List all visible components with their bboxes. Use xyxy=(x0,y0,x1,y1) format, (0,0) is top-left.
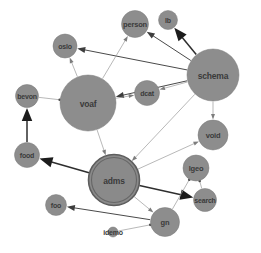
graph-node-adms[interactable]: adms xyxy=(89,155,140,206)
node-circle[interactable] xyxy=(194,189,217,212)
graph-edge xyxy=(39,97,60,99)
node-circle[interactable] xyxy=(16,85,39,108)
node-circle[interactable] xyxy=(53,34,77,58)
graph-edge-arrowhead xyxy=(211,114,215,120)
graph-edge xyxy=(52,162,90,173)
node-circle[interactable] xyxy=(183,155,209,181)
node-circle[interactable] xyxy=(60,75,116,131)
graph-edge-arrowhead xyxy=(193,141,199,145)
graph-edge-arrowhead xyxy=(67,205,75,211)
graph-node-bevon[interactable]: bevon xyxy=(16,85,39,108)
node-circle[interactable] xyxy=(135,81,160,106)
graph-edge-arrowhead xyxy=(128,94,134,98)
node-circle[interactable] xyxy=(151,208,180,237)
graph-edge xyxy=(134,197,149,210)
node-circle[interactable] xyxy=(89,155,140,206)
graph-node-schema[interactable]: schema xyxy=(187,49,239,101)
graph-node-gn[interactable]: gn xyxy=(151,208,180,237)
graph-node-dcat[interactable]: dcat xyxy=(135,81,160,106)
node-circle[interactable] xyxy=(108,227,118,237)
graph-edge xyxy=(118,225,150,231)
graph-edge-arrowhead xyxy=(174,28,186,41)
graph-edge xyxy=(85,50,187,70)
node-circle[interactable] xyxy=(122,11,149,38)
graph-node-search[interactable]: search xyxy=(194,189,217,212)
graph-edge xyxy=(74,208,150,220)
graph-node-lgeo[interactable]: lgeo xyxy=(183,155,209,181)
node-circle[interactable] xyxy=(46,195,67,216)
graph-edge xyxy=(72,62,78,76)
graph-edge-arrowhead xyxy=(77,47,85,53)
graph-node-food[interactable]: food xyxy=(15,143,40,168)
graph-canvas[interactable]: personlbosloschemabevonvoafdcatvoidfooda… xyxy=(0,0,261,253)
graph-edge xyxy=(103,40,126,78)
graph-edge xyxy=(182,37,196,54)
graph-edge xyxy=(139,186,181,195)
graph-edge-arrowhead xyxy=(179,190,193,200)
graph-node-person[interactable]: person xyxy=(122,11,149,38)
graph-node-void[interactable]: void xyxy=(198,120,228,150)
graph-edge-arrowhead xyxy=(102,150,106,156)
node-circle[interactable] xyxy=(187,49,239,101)
node-circle[interactable] xyxy=(15,143,40,168)
graph-edge-arrowhead xyxy=(39,157,53,167)
graph-edge-arrowhead xyxy=(123,36,128,42)
graph-node-lb[interactable]: lb xyxy=(159,11,178,30)
graph-edge xyxy=(97,130,104,151)
node-circle[interactable] xyxy=(198,120,228,150)
graph-node-idemo[interactable]: idemo xyxy=(103,227,123,237)
graph-nodes-layer: personlbosloschemabevonvoafdcatvoidfooda… xyxy=(15,11,240,238)
graph-edge-arrowhead xyxy=(147,32,155,39)
graph-edge-arrowhead xyxy=(70,58,74,64)
graph-edge xyxy=(153,36,191,61)
node-circle[interactable] xyxy=(159,11,178,30)
graph-node-oslo[interactable]: oslo xyxy=(53,34,77,58)
graph-edge-arrowhead xyxy=(22,108,33,121)
vocabulary-network-graph[interactable]: personlbosloschemabevonvoafdcatvoidfooda… xyxy=(0,0,261,253)
graph-node-foo[interactable]: foo xyxy=(46,195,67,216)
graph-node-voaf[interactable]: voaf xyxy=(60,75,116,131)
